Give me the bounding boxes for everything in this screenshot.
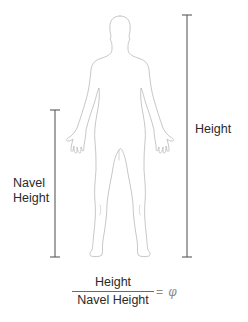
phi-symbol: φ [168,285,176,299]
navel-height-label-line1: Navel [13,176,53,191]
fraction-bar [72,291,154,292]
navel-height-label-line2: Height [13,191,53,206]
golden-ratio-diagram: Height Navel Height Height Navel Height … [0,0,248,322]
human-figure-outline [67,16,174,257]
equals-sign: = [156,285,163,299]
navel-height-label: Navel Height [13,176,53,206]
fraction: Height Navel Height [72,275,154,308]
fraction-numerator: Height [72,275,154,290]
diagram-graphics [0,0,248,322]
equals-phi: = φ [156,285,177,299]
height-measure-line [182,15,192,257]
fraction-denominator: Navel Height [72,293,154,308]
height-label: Height [195,122,231,137]
